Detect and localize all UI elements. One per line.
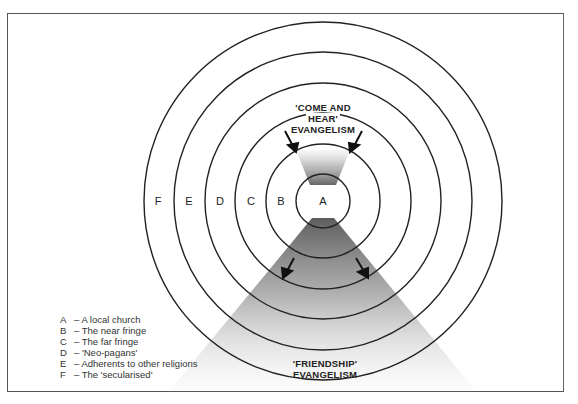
come-and-hear-heading: 'COME AND HEAR' EVANGELISM bbox=[290, 102, 356, 135]
heading-line: HEAR' bbox=[306, 113, 340, 124]
heading-line: 'FRIENDSHIP' bbox=[293, 358, 357, 369]
ring-label-c: C bbox=[247, 195, 255, 207]
heading-line: EVANGELISM bbox=[290, 124, 356, 135]
legend-key: B bbox=[60, 325, 74, 336]
legend-key: A bbox=[60, 314, 74, 325]
come-and-hear-shading bbox=[296, 150, 350, 185]
legend-item: E– Adherents to other religions bbox=[60, 358, 198, 369]
legend-key: D bbox=[60, 347, 74, 358]
ring-label-e: E bbox=[185, 195, 192, 207]
friendship-heading: 'FRIENDSHIP' EVANGELISM bbox=[293, 358, 357, 380]
ring-label-d: D bbox=[216, 195, 224, 207]
legend-item: C– The far fringe bbox=[60, 336, 198, 347]
heading-line: EVANGELISM bbox=[293, 369, 357, 380]
legend: A– A local church B– The near fringe C– … bbox=[60, 314, 198, 380]
legend-item: F– The 'secularised' bbox=[60, 369, 198, 380]
legend-text: – Adherents to other religions bbox=[74, 358, 198, 369]
ring-label-f: F bbox=[155, 195, 162, 207]
ring-label-a: A bbox=[319, 195, 326, 207]
heading-line: 'COME AND bbox=[290, 102, 356, 113]
legend-text: – A local church bbox=[74, 314, 141, 325]
legend-key: F bbox=[60, 369, 74, 380]
ring-label-b: B bbox=[277, 195, 284, 207]
legend-text: – The 'secularised' bbox=[74, 369, 152, 380]
legend-text: – 'Neo-pagans' bbox=[74, 347, 137, 358]
legend-key: E bbox=[60, 358, 74, 369]
legend-key: C bbox=[60, 336, 74, 347]
legend-item: B– The near fringe bbox=[60, 325, 198, 336]
legend-item: D– 'Neo-pagans' bbox=[60, 347, 198, 358]
legend-text: – The near fringe bbox=[74, 325, 146, 336]
legend-item: A– A local church bbox=[60, 314, 198, 325]
legend-text: – The far fringe bbox=[74, 336, 138, 347]
